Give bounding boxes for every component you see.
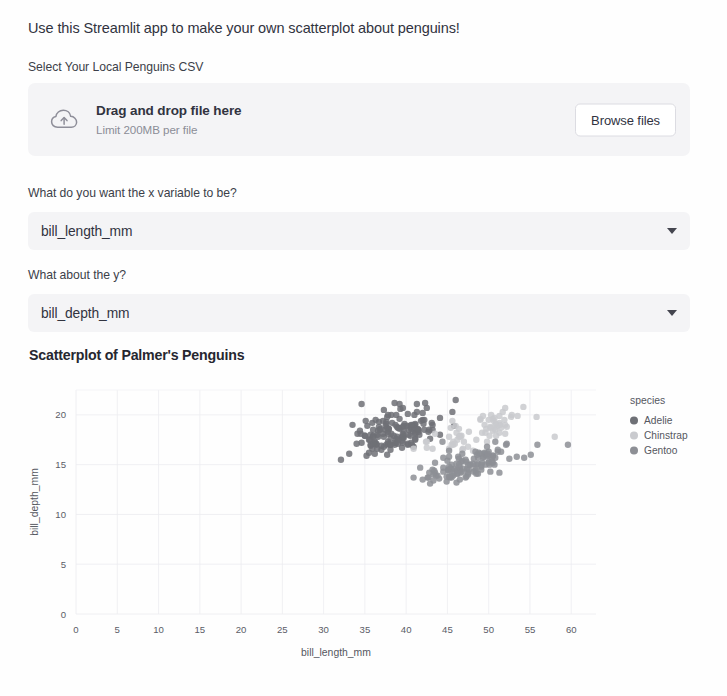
svg-text:20: 20 (236, 624, 247, 635)
svg-text:10: 10 (153, 624, 164, 635)
legend-dot-gentoo (630, 447, 638, 455)
legend-label-gentoo: Gentoo (644, 445, 678, 456)
svg-text:15: 15 (194, 624, 205, 635)
svg-text:5: 5 (61, 559, 66, 570)
svg-text:20: 20 (55, 409, 66, 420)
series-adelie (338, 397, 459, 463)
dropzone-limit: Limit 200MB per file (96, 123, 241, 136)
x-variable-select[interactable]: bill_length_mm (28, 212, 690, 250)
svg-text:bill_depth_mm: bill_depth_mm (29, 468, 40, 536)
intro-text: Use this Streamlit app to make your own … (28, 20, 460, 36)
svg-text:species: species (630, 395, 665, 406)
file-uploader-dropzone[interactable]: Drag and drop file here Limit 200MB per … (28, 83, 690, 156)
x-variable-label: What do you want the x variable to be? (28, 186, 237, 200)
dropzone-title: Drag and drop file here (96, 103, 241, 120)
x-variable-selected-value: bill_length_mm (41, 224, 132, 239)
legend-dot-adelie (630, 417, 638, 425)
dropzone-text-group: Drag and drop file here Limit 200MB per … (96, 103, 241, 136)
scatterplot-chart: 05101520253035404550556005101520bill_len… (16, 378, 716, 668)
chart-title: Scatterplot of Palmer's Penguins (29, 347, 244, 363)
svg-text:35: 35 (360, 624, 371, 635)
series-gentoo (410, 439, 571, 487)
svg-text:15: 15 (55, 459, 66, 470)
y-variable-selected-value: bill_depth_mm (41, 306, 129, 321)
file-uploader-label: Select Your Local Penguins CSV (28, 60, 203, 74)
browse-files-button[interactable]: Browse files (575, 103, 676, 136)
chevron-down-icon (667, 228, 677, 234)
y-variable-select[interactable]: bill_depth_mm (28, 294, 690, 332)
svg-text:5: 5 (115, 624, 120, 635)
svg-text:25: 25 (277, 624, 288, 635)
legend-dot-chinstrap (630, 432, 638, 440)
chevron-down-icon (667, 310, 677, 316)
svg-text:55: 55 (525, 624, 536, 635)
svg-text:10: 10 (55, 509, 66, 520)
svg-text:0: 0 (73, 624, 78, 635)
legend-label-chinstrap: Chinstrap (644, 430, 688, 441)
svg-text:45: 45 (442, 624, 453, 635)
streamlit-app-page: Use this Streamlit app to make your own … (0, 0, 727, 696)
svg-text:60: 60 (566, 624, 577, 635)
svg-text:30: 30 (318, 624, 329, 635)
cloud-upload-icon (48, 105, 82, 135)
svg-text:40: 40 (401, 624, 412, 635)
y-variable-label: What about the y? (28, 268, 126, 282)
svg-text:0: 0 (61, 609, 66, 620)
svg-text:bill_length_mm: bill_length_mm (301, 647, 371, 658)
svg-text:50: 50 (483, 624, 494, 635)
legend-label-adelie: Adelie (644, 415, 673, 426)
